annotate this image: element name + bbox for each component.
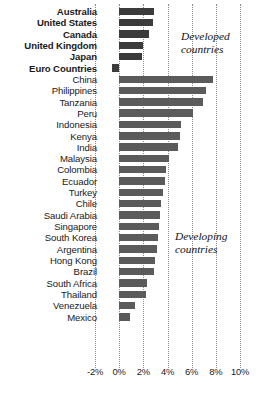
bar	[119, 132, 179, 139]
bar	[119, 189, 163, 196]
bar-label: China	[0, 74, 97, 85]
bar-row: Ecuador	[0, 176, 260, 187]
bar-label: Japan	[0, 51, 97, 62]
bar	[119, 211, 160, 218]
bar-label: Malaysia	[0, 153, 97, 164]
bar	[119, 291, 146, 298]
bar	[119, 42, 143, 49]
bar	[119, 313, 130, 320]
bar-label: Hong Kong	[0, 255, 97, 266]
bar-label: Brazil	[0, 266, 97, 277]
annotation-developed-line1: Developed	[181, 30, 230, 43]
x-axis: -2%0%2%4%6%8%10%	[0, 366, 260, 380]
bar-row: China	[0, 74, 260, 85]
annotation-developing-countries: Developing countries	[175, 230, 228, 255]
bar	[112, 64, 119, 71]
bar-row: Chile	[0, 198, 260, 209]
annotation-developed-line2: countries	[181, 43, 230, 56]
bar	[119, 121, 181, 128]
bar	[119, 234, 158, 241]
bar-label: Thailand	[0, 289, 97, 300]
bar	[119, 30, 149, 37]
annotation-developed-countries: Developed countries	[181, 30, 230, 55]
bar-row: United States	[0, 17, 260, 28]
bar-row: Mexico	[0, 312, 260, 323]
x-axis-tick-label: 10%	[231, 366, 249, 377]
bar-row: South Africa	[0, 278, 260, 289]
bar-chart: AustraliaUnited StatesCanadaUnited Kingd…	[0, 0, 260, 394]
x-axis-tick-label: 8%	[209, 366, 222, 377]
bar-label: Indonesia	[0, 119, 97, 130]
bar-row: Peru	[0, 108, 260, 119]
bar-label: Canada	[0, 29, 97, 40]
x-axis-tick-label: -2%	[87, 366, 103, 377]
x-axis-tick-label: 0%	[113, 366, 126, 377]
bar-label: Euro Countries	[0, 63, 97, 74]
bar	[119, 8, 154, 15]
bar-row: Venezuela	[0, 300, 260, 311]
bar-row: Thailand	[0, 289, 260, 300]
bar	[119, 76, 213, 83]
bar-label: Tanzania	[0, 97, 97, 108]
bar-label: Turkey	[0, 187, 97, 198]
bar-label: Venezuela	[0, 300, 97, 311]
bar-label: Peru	[0, 108, 97, 119]
bar-label: Kenya	[0, 131, 97, 142]
bar-row: Kenya	[0, 131, 260, 142]
bar	[119, 109, 193, 116]
annotation-developing-line2: countries	[175, 243, 228, 256]
bar-row: Australia	[0, 6, 260, 17]
bar-row: Philippines	[0, 85, 260, 96]
bar-row: Turkey	[0, 187, 260, 198]
bar-label: Australia	[0, 6, 97, 17]
bar-row: Indonesia	[0, 119, 260, 130]
bar	[119, 98, 202, 105]
bar	[119, 155, 169, 162]
bar-row: Colombia	[0, 164, 260, 175]
bar	[119, 177, 165, 184]
bar-label: South Africa	[0, 278, 97, 289]
bar-label: Singapore	[0, 221, 97, 232]
x-axis-tick-label: 4%	[161, 366, 174, 377]
bar-label: United States	[0, 17, 97, 28]
bar	[119, 223, 159, 230]
bar-label: Saudi Arabia	[0, 210, 97, 221]
bar-label: Argentina	[0, 244, 97, 255]
bar-row: Saudi Arabia	[0, 210, 260, 221]
bar-row: Malaysia	[0, 153, 260, 164]
bar-label: United Kingdom	[0, 40, 97, 51]
bar-row: Brazil	[0, 266, 260, 277]
bar-row: Euro Countries	[0, 63, 260, 74]
bar-row: India	[0, 142, 260, 153]
bar	[119, 279, 147, 286]
bar	[119, 143, 178, 150]
x-axis-tick-label: 6%	[185, 366, 198, 377]
bar-label: Ecuador	[0, 176, 97, 187]
bar-label: Philippines	[0, 85, 97, 96]
bar-row: Hong Kong	[0, 255, 260, 266]
bar-label: Chile	[0, 198, 97, 209]
bar-label: Colombia	[0, 164, 97, 175]
bar	[119, 245, 156, 252]
bar	[119, 19, 153, 26]
bar-label: South Korea	[0, 232, 97, 243]
bar	[119, 166, 166, 173]
bar-label: India	[0, 142, 97, 153]
plot-area: AustraliaUnited StatesCanadaUnited Kingd…	[0, 0, 260, 394]
bar	[119, 87, 206, 94]
annotation-developing-line1: Developing	[175, 230, 228, 243]
bar	[119, 257, 155, 264]
bar	[119, 200, 161, 207]
bar	[119, 53, 142, 60]
bar	[119, 268, 154, 275]
bar	[119, 302, 135, 309]
x-axis-tick-label: 2%	[137, 366, 150, 377]
bar-row: Tanzania	[0, 97, 260, 108]
bar-label: Mexico	[0, 312, 97, 323]
